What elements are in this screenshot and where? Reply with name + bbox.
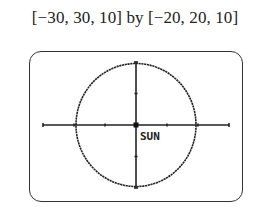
sun-dot bbox=[134, 123, 139, 128]
graph-plot: SUN bbox=[0, 0, 270, 207]
sun-label: SUN bbox=[140, 130, 160, 143]
